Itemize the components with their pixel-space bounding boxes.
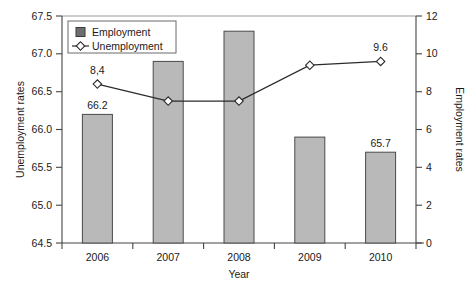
x-axis-ticks xyxy=(62,243,416,249)
left-tick-label: 66.0 xyxy=(32,123,53,135)
marker-2009 xyxy=(306,61,314,69)
line-label-2010: 9.6 xyxy=(373,41,388,53)
right-tick-label: 8 xyxy=(426,85,432,97)
right-tick-label: 4 xyxy=(426,161,432,173)
left-axis-ticks: 64.5 65.0 65.5 66.0 66.5 67.0 67.5 xyxy=(32,10,62,249)
right-tick-label: 0 xyxy=(426,237,432,249)
bar-label-2006: 66.2 xyxy=(87,99,108,111)
right-tick-label: 6 xyxy=(426,123,432,135)
left-tick-label: 67.5 xyxy=(32,10,53,22)
marker-2006 xyxy=(93,80,101,88)
x-tick-label-2007: 2007 xyxy=(157,251,181,263)
left-tick-label: 64.5 xyxy=(32,237,53,249)
bar-2007 xyxy=(153,61,183,243)
left-tick-label: 65.5 xyxy=(32,161,53,173)
chart-svg: 64.5 65.0 65.5 66.0 66.5 67.0 67.5 0 2 4… xyxy=(0,0,471,283)
left-axis-title: Unemployment rates xyxy=(14,81,26,178)
x-tick-label-2009: 2009 xyxy=(298,251,322,263)
marker-2010 xyxy=(376,57,384,65)
x-tick-label-2010: 2010 xyxy=(369,251,393,263)
right-tick-label: 2 xyxy=(426,199,432,211)
bar-2006 xyxy=(82,114,112,243)
left-tick-label: 65.0 xyxy=(32,199,53,211)
bar-label-2010: 65.7 xyxy=(370,137,391,149)
right-axis-ticks: 0 2 4 6 8 10 12 xyxy=(416,10,438,249)
left-tick-label: 67.0 xyxy=(32,47,53,59)
left-tick-label: 66.5 xyxy=(32,85,53,97)
chart-container: 64.5 65.0 65.5 66.0 66.5 67.0 67.5 0 2 4… xyxy=(0,0,471,283)
bar-2010 xyxy=(366,152,396,243)
legend-swatch-employment-icon xyxy=(76,28,85,37)
x-tick-label-2006: 2006 xyxy=(86,251,110,263)
x-axis-title: Year xyxy=(228,268,250,280)
right-tick-label: 12 xyxy=(426,10,438,22)
x-tick-label-2008: 2008 xyxy=(227,251,251,263)
legend: Employment Unemployment xyxy=(68,21,176,53)
legend-label-employment: Employment xyxy=(92,26,150,38)
x-axis-category-labels: 2006 2007 2008 2009 2010 xyxy=(86,251,393,263)
line-label-2006: 8,4 xyxy=(90,64,105,76)
bar-2008 xyxy=(224,31,254,243)
right-axis-title: Employment rates xyxy=(454,87,466,172)
bar-2009 xyxy=(295,137,325,243)
right-tick-label: 10 xyxy=(426,47,438,59)
legend-label-unemployment: Unemployment xyxy=(92,40,163,52)
